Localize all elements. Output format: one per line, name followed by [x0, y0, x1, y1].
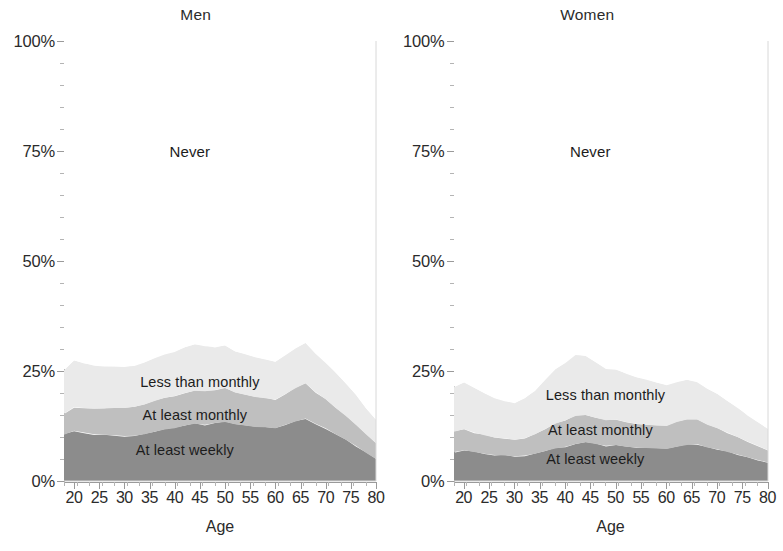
- x-tick-minor: [177, 482, 178, 486]
- y-tick-label: 50%: [23, 252, 55, 271]
- y-tick-label: 75%: [412, 142, 444, 161]
- panel-title-women-text: Women: [392, 6, 783, 24]
- series-group-women: [454, 41, 768, 481]
- x-tick-label: 40: [166, 489, 183, 507]
- y-tick-major: [447, 41, 454, 42]
- y-axis-labels-women: 0%25%50%75%100%: [392, 41, 454, 482]
- x-tick-major: [200, 482, 201, 489]
- x-tick-label: 65: [683, 489, 700, 507]
- x-tick-major: [225, 482, 226, 489]
- y-tick-label: 50%: [412, 252, 444, 271]
- x-tick-minor: [202, 482, 203, 486]
- x-tick-label: 65: [292, 489, 309, 507]
- x-tick-minor: [366, 482, 367, 486]
- x-tick-major: [565, 482, 566, 489]
- x-tick-label: 35: [141, 489, 158, 507]
- x-tick-major: [768, 482, 769, 489]
- area-chart-women: [454, 41, 768, 481]
- x-tick-major: [175, 482, 176, 489]
- x-tick-minor: [240, 482, 241, 486]
- x-tick-minor: [77, 482, 78, 486]
- x-tick-minor: [694, 482, 695, 486]
- x-tick-label: 45: [582, 489, 599, 507]
- x-tick-major: [74, 482, 75, 489]
- x-tick-major: [641, 482, 642, 489]
- y-axis-labels-men: 0%25%50%75%100%: [0, 41, 64, 482]
- x-axis-line-women: [454, 482, 768, 483]
- x-tick-minor: [290, 482, 291, 486]
- x-tick-major: [301, 482, 302, 489]
- x-tick-minor: [127, 482, 128, 486]
- y-tick-major: [57, 261, 64, 262]
- y-tick-major: [57, 371, 64, 372]
- panel-title-men-text: Men: [0, 6, 392, 24]
- x-axis-title-women: Age: [454, 518, 768, 536]
- x-tick-major: [742, 482, 743, 489]
- x-tick-minor: [567, 482, 568, 486]
- x-tick-label: 60: [658, 489, 675, 507]
- x-tick-minor: [605, 482, 606, 486]
- x-tick-major: [540, 482, 541, 489]
- y-tick-label: 25%: [23, 362, 55, 381]
- x-tick-minor: [669, 482, 670, 486]
- series-label-less-than-monthly: Less than monthly: [546, 387, 665, 403]
- y-tick-major: [447, 261, 454, 262]
- x-tick-label: 30: [506, 489, 523, 507]
- y-tick-major: [57, 151, 64, 152]
- x-tick-minor: [278, 482, 279, 486]
- x-tick-minor: [681, 482, 682, 486]
- x-tick-minor: [719, 482, 720, 486]
- x-tick-label: 40: [556, 489, 573, 507]
- x-tick-major: [250, 482, 251, 489]
- x-tick-minor: [542, 482, 543, 486]
- x-tick-minor: [466, 482, 467, 486]
- x-tick-label: 80: [759, 489, 776, 507]
- y-tick-label: 0%: [32, 472, 55, 491]
- x-tick-label: 45: [191, 489, 208, 507]
- x-tick-minor: [757, 482, 758, 486]
- x-tick-label: 30: [116, 489, 133, 507]
- x-tick-label: 60: [267, 489, 284, 507]
- y-tick-major: [57, 41, 64, 42]
- x-tick-major: [275, 482, 276, 489]
- x-tick-label: 35: [531, 489, 548, 507]
- x-tick-major: [124, 482, 125, 489]
- x-tick-minor: [454, 482, 455, 486]
- series-label-at-least-monthly: At least monthly: [548, 422, 653, 438]
- x-tick-minor: [190, 482, 191, 486]
- y-tick-label: 0%: [421, 472, 444, 491]
- plot-area-women: NeverLess than monthlyAt least monthlyAt…: [454, 41, 768, 481]
- x-tick-label: 55: [242, 489, 259, 507]
- x-tick-minor: [139, 482, 140, 486]
- x-tick-major: [514, 482, 515, 489]
- x-tick-major: [376, 482, 377, 489]
- x-tick-minor: [529, 482, 530, 486]
- x-tick-minor: [89, 482, 90, 486]
- x-tick-minor: [114, 482, 115, 486]
- x-tick-minor: [328, 482, 329, 486]
- x-tick-minor: [253, 482, 254, 486]
- x-tick-minor: [341, 482, 342, 486]
- x-axis-line-men: [64, 482, 376, 483]
- panel-men: Men 0%25%50%75%100% NeverLess than month…: [0, 0, 392, 551]
- x-axis-labels-men: 20253035404550556065707580: [64, 489, 376, 511]
- x-tick-minor: [152, 482, 153, 486]
- x-tick-minor: [165, 482, 166, 486]
- x-tick-minor: [643, 482, 644, 486]
- x-tick-minor: [102, 482, 103, 486]
- x-tick-minor: [491, 482, 492, 486]
- x-tick-major: [326, 482, 327, 489]
- x-tick-major: [150, 482, 151, 489]
- x-tick-minor: [707, 482, 708, 486]
- x-tick-minor: [631, 482, 632, 486]
- x-tick-minor: [517, 482, 518, 486]
- x-tick-label: 55: [632, 489, 649, 507]
- y-tick-major: [57, 481, 64, 482]
- x-tick-major: [590, 482, 591, 489]
- x-tick-label: 20: [66, 489, 83, 507]
- x-tick-label: 25: [480, 489, 497, 507]
- x-tick-minor: [732, 482, 733, 486]
- x-tick-label: 80: [368, 489, 385, 507]
- y-tick-major: [447, 151, 454, 152]
- series-label-at-least-weekly: At least weekly: [136, 442, 234, 458]
